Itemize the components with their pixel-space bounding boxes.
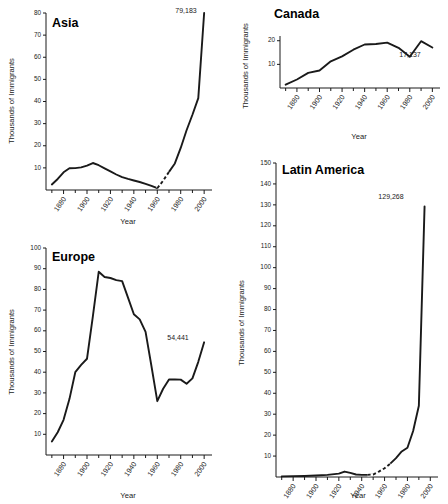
y-tick-label: 90 xyxy=(264,284,272,291)
x-tick-label: 1980 xyxy=(169,195,186,213)
x-tick-label: 2000 xyxy=(192,460,209,478)
y-tick-label: 20 xyxy=(34,409,42,416)
x-tick-label: 1960 xyxy=(145,460,162,478)
y-tick-label: 30 xyxy=(264,410,272,417)
canada-chart-svg: 10201880190019201940196019802000 Canada … xyxy=(228,0,448,145)
asia-plot: 1020304050607080188019001920194019601980… xyxy=(34,9,212,214)
x-tick-label: 1980 xyxy=(398,93,415,111)
x-tick-label: 2000 xyxy=(420,93,437,111)
series-line xyxy=(52,272,204,442)
y-tick-label: 50 xyxy=(264,368,272,375)
y-tick-label: 100 xyxy=(30,244,41,251)
x-tick-label: 1920 xyxy=(327,482,344,500)
y-tick-label: 80 xyxy=(34,285,42,292)
x-tick-label: 1940 xyxy=(353,93,370,111)
y-tick-label: 60 xyxy=(264,347,272,354)
x-tick-label: 1940 xyxy=(122,195,139,213)
asia-value-label: 79,183 xyxy=(175,7,197,14)
x-tick-label: 1920 xyxy=(330,93,347,111)
y-tick-label: 70 xyxy=(264,326,272,333)
canada-title: Canada xyxy=(274,7,320,21)
europe-plot: 1020304050607080901001880190019201940196… xyxy=(30,244,212,479)
canada-y-axis-title: Thousands of Immigrants xyxy=(241,23,250,109)
latin-america-title: Latin America xyxy=(282,163,365,177)
y-tick-label: 30 xyxy=(34,119,42,126)
x-tick-label: 1900 xyxy=(308,93,325,111)
x-tick-label: 1960 xyxy=(145,195,162,213)
asia-chart-svg: 1020304050607080188019001920194019601980… xyxy=(0,0,230,230)
x-tick-label: 1960 xyxy=(375,93,392,111)
x-tick-label: 1980 xyxy=(396,482,413,500)
y-tick-label: 130 xyxy=(260,201,271,208)
x-tick-label: 1980 xyxy=(169,460,186,478)
asia-y-axis-title: Thousands of Immigrants xyxy=(7,58,16,144)
y-tick-label: 80 xyxy=(34,9,42,16)
x-tick-label: 1880 xyxy=(281,482,298,500)
y-tick-label: 10 xyxy=(264,452,272,459)
y-tick-label: 10 xyxy=(34,164,42,171)
y-tick-label: 20 xyxy=(34,141,42,148)
asia-x-axis-title: Year xyxy=(120,217,136,226)
y-tick-label: 60 xyxy=(34,326,42,333)
europe-chart-svg: 1020304050607080901001880190019201940196… xyxy=(0,228,230,504)
y-tick-label: 50 xyxy=(34,347,42,354)
y-tick-label: 40 xyxy=(34,368,42,375)
latin-america-value-label: 129,268 xyxy=(378,193,403,200)
x-tick-label: 1880 xyxy=(52,460,69,478)
y-tick-label: 150 xyxy=(260,159,271,166)
latin-america-plot: 1020304050607080901001101201301401501880… xyxy=(260,159,438,501)
y-tick-label: 100 xyxy=(260,263,271,270)
y-tick-label: 110 xyxy=(261,242,272,249)
x-tick-label: 1900 xyxy=(75,460,92,478)
y-tick-label: 120 xyxy=(260,221,271,228)
latin-america-chart-svg: 1020304050607080901001101201301401501880… xyxy=(228,143,448,504)
europe-title: Europe xyxy=(52,250,95,264)
asia-title: Asia xyxy=(52,16,79,30)
series-line xyxy=(282,206,425,476)
y-tick-label: 60 xyxy=(34,53,42,60)
chart-panel-latin-america: 1020304050607080901001101201301401501880… xyxy=(228,143,448,504)
series-line xyxy=(286,41,433,84)
y-tick-label: 140 xyxy=(260,180,271,187)
x-tick-label: 1960 xyxy=(373,482,390,500)
canada-plot: 10201880190019201940196019802000 xyxy=(268,36,440,111)
canada-x-axis-title: Year xyxy=(351,132,367,141)
x-tick-label: 1920 xyxy=(99,195,116,213)
x-tick-label: 1920 xyxy=(99,460,116,478)
europe-y-axis-title: Thousands of Immigrants xyxy=(7,309,16,395)
x-tick-label: 1940 xyxy=(122,460,139,478)
x-tick-label: 1900 xyxy=(304,482,321,500)
europe-value-label: 54,441 xyxy=(167,334,189,341)
y-tick-label: 30 xyxy=(34,389,42,396)
y-tick-label: 70 xyxy=(34,31,42,38)
x-tick-label: 1880 xyxy=(52,195,69,213)
x-tick-label: 2000 xyxy=(192,195,209,213)
chart-panel-canada: 10201880190019201940196019802000 Canada … xyxy=(228,0,448,145)
canada-value-label: 17,137 xyxy=(399,51,421,58)
y-tick-label: 40 xyxy=(264,389,272,396)
latin-america-y-axis-title: Thousands of Immigrants xyxy=(237,280,246,366)
y-tick-label: 80 xyxy=(264,305,272,312)
x-tick-label: 2000 xyxy=(418,482,435,500)
y-tick-label: 90 xyxy=(34,264,42,271)
y-tick-label: 10 xyxy=(268,60,276,67)
y-tick-label: 70 xyxy=(34,306,42,313)
latin-america-x-axis-title: Year xyxy=(350,491,366,500)
y-tick-label: 20 xyxy=(268,36,276,43)
y-tick-label: 40 xyxy=(34,97,42,104)
y-tick-label: 10 xyxy=(34,430,42,437)
dashed-segment-mask xyxy=(367,464,390,475)
y-tick-label: 50 xyxy=(34,75,42,82)
y-tick-label: 20 xyxy=(264,431,272,438)
series-line xyxy=(52,13,204,188)
europe-x-axis-title: Year xyxy=(120,491,136,500)
x-tick-label: 1880 xyxy=(285,93,302,111)
chart-panel-europe: 1020304050607080901001880190019201940196… xyxy=(0,228,230,504)
chart-panel-asia: 1020304050607080188019001920194019601980… xyxy=(0,0,230,230)
x-tick-label: 1900 xyxy=(75,195,92,213)
